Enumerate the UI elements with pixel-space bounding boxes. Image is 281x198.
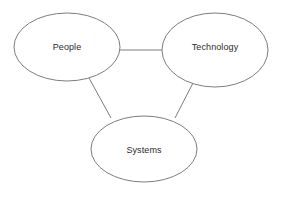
node-technology-label: Technology bbox=[192, 42, 239, 52]
diagram-svg: People Technology Systems bbox=[0, 0, 281, 198]
connector-people-systems bbox=[89, 78, 111, 118]
node-people-label: People bbox=[53, 42, 82, 52]
node-systems-label: Systems bbox=[126, 145, 162, 155]
node-systems[interactable]: Systems bbox=[91, 116, 197, 182]
node-technology[interactable]: Technology bbox=[162, 13, 268, 87]
node-people[interactable]: People bbox=[14, 13, 120, 81]
connector-technology-systems bbox=[175, 83, 193, 118]
diagram-canvas: People Technology Systems bbox=[0, 0, 281, 198]
